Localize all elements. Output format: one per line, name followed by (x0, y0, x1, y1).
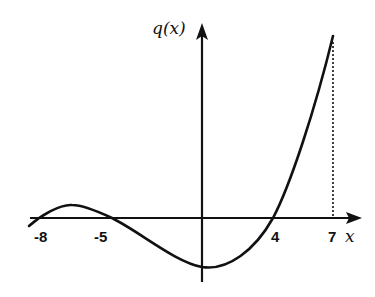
x-tick-label-m8: -8 (34, 228, 47, 245)
chart-plot-area (0, 0, 375, 297)
y-axis-label: q(x) (152, 18, 186, 38)
x-tick-label-7: 7 (328, 228, 336, 245)
x-tick-label-4: 4 (271, 228, 279, 245)
q-curve (29, 36, 333, 267)
x-tick-label-m5: -5 (94, 228, 107, 245)
x-axis-label: x (345, 226, 355, 246)
